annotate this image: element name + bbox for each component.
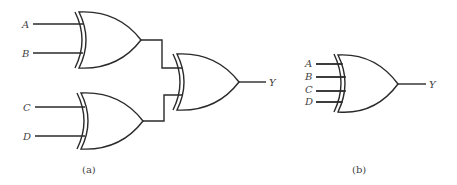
label-a: A xyxy=(21,19,29,30)
xor-gate-3 xyxy=(173,54,239,110)
xor-gate-2 xyxy=(77,93,143,149)
figure-a: A B C D Y (a) xyxy=(21,12,277,175)
label-d: D xyxy=(22,131,31,142)
label-c: C xyxy=(23,102,31,113)
xor-gate-1 xyxy=(75,12,141,68)
label-b-b: B xyxy=(304,71,312,82)
label-y-a: Y xyxy=(269,77,277,88)
label-y-b: Y xyxy=(429,79,437,90)
label-b-a: A xyxy=(304,58,312,69)
label-b: B xyxy=(21,48,29,59)
label-b-c: C xyxy=(305,84,313,95)
caption-a: (a) xyxy=(82,164,96,175)
figure-b: A B C D Y (b) xyxy=(304,54,437,175)
caption-b: (b) xyxy=(352,164,366,175)
label-b-d: D xyxy=(304,96,313,107)
xor-gate-4 xyxy=(316,54,398,112)
xor-circuit-diagram: A B C D Y (a) A B C D Y (b) xyxy=(0,0,457,185)
